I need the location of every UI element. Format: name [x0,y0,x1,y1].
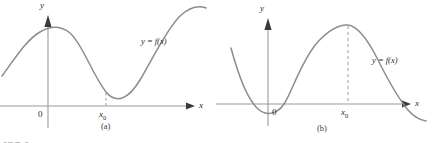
panel-a-origin-label: 0 [38,110,43,119]
panel-a-x-axis-label: x [199,101,203,110]
figure-container: y x 0 x0 y = f(x) (a) y x 0 [0,0,433,143]
panel-a-x0-subscript: 0 [103,114,106,121]
panel-b-x0-subscript: 0 [345,112,348,119]
panel-b-x0-label: x0 [341,108,348,119]
panel-b-y-axis [264,18,271,126]
panel-b-curve [231,25,426,121]
panel-a: y x 0 x0 y = f(x) (a) [0,0,217,143]
panel-b-y-axis-label: y [260,4,264,13]
panel-b-origin-label: 0 [272,108,277,117]
panel-b-x-axis-label: x [415,99,419,108]
panel-a-y-axis [44,15,51,128]
panel-a-curve [2,7,206,99]
clipped-footer-text: JRE 6 [2,140,30,143]
panel-b-x-axis [216,100,411,107]
panel-b-plot [216,0,433,143]
panel-a-function-label: y = f(x) [141,37,167,46]
panel-a-y-axis-label: y [40,1,44,10]
panel-b-function-label: y = f(x) [372,56,398,65]
panel-b: y x 0 x0 y = f(x) (b) [216,0,433,143]
panel-a-x0-label: x0 [99,110,106,121]
panel-a-caption: (a) [101,122,110,131]
panel-a-x-axis [0,102,195,109]
panel-b-caption: (b) [317,124,327,133]
